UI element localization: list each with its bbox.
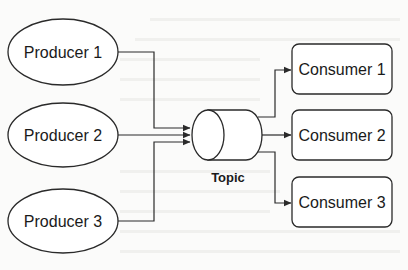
edge-producer1-topic [118,52,190,128]
producer-3-label: Producer 3 [24,213,102,230]
diagram-canvas: Producer 1 Producer 2 Producer 3 Topic C… [0,0,408,270]
producer-1-label: Producer 1 [24,44,102,61]
edge-topic-consumer3 [258,152,291,203]
producer-node-2: Producer 2 [8,103,118,167]
consumer-connectors [258,70,291,203]
producer-connectors [118,52,190,221]
producer-2-label: Producer 2 [24,127,102,144]
consumer-node-2: Consumer 2 [292,110,392,160]
producer-node-1: Producer 1 [8,19,118,85]
consumer-3-label: Consumer 3 [298,194,385,211]
topic-cylinder-cap [192,110,224,160]
consumer-node-1: Consumer 1 [292,44,392,94]
topic-label: Topic [211,170,245,185]
diagram-svg: Producer 1 Producer 2 Producer 3 Topic C… [0,0,408,270]
producer-node-3: Producer 3 [8,189,118,253]
topic-node: Topic [192,110,262,185]
consumer-1-label: Consumer 1 [298,61,385,78]
consumer-node-3: Consumer 3 [292,177,392,227]
edge-producer3-topic [118,142,190,221]
edge-topic-consumer1 [258,70,291,117]
consumer-2-label: Consumer 2 [298,127,385,144]
